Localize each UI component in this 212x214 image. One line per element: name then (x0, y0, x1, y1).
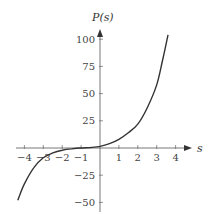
x-axis-label: s (197, 142, 203, 155)
y-tick-label: 75 (82, 61, 95, 72)
x-tick-label: 2 (135, 152, 141, 163)
x-tick-label: 4 (172, 152, 178, 163)
y-tick-label: −25 (74, 170, 95, 181)
y-tick-label: 100 (76, 34, 95, 45)
y-tick-label: 25 (82, 115, 95, 126)
y-tick-label: 50 (82, 88, 95, 99)
y-axis-arrow-icon (97, 29, 103, 37)
x-tick-label: −4 (17, 152, 32, 163)
x-tick-label: −1 (74, 152, 89, 163)
x-tick-label: 1 (116, 152, 122, 163)
y-tick-label: −50 (74, 197, 95, 208)
chart: −4−3−2−11234100755025−25−50 s P(s) (0, 0, 212, 214)
tick-labels: −4−3−2−11234100755025−25−50 (17, 34, 179, 208)
x-axis-arrow-icon (184, 145, 192, 151)
x-tick-label: 3 (154, 152, 160, 163)
y-axis-label: P(s) (91, 11, 114, 24)
axes (16, 29, 192, 212)
x-tick-label: −2 (55, 152, 70, 163)
